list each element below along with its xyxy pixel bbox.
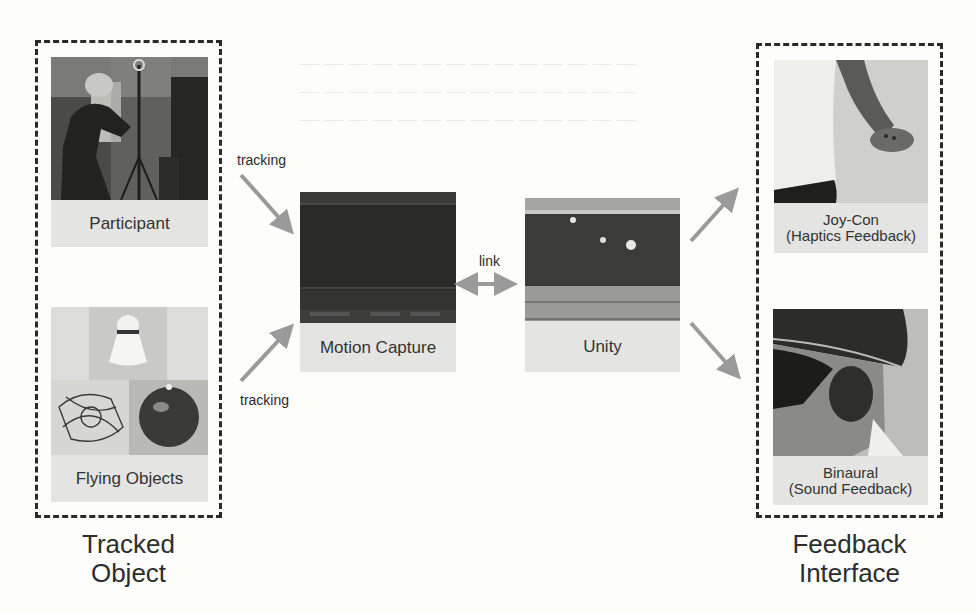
edge-label-link: link bbox=[479, 253, 500, 269]
edge-layer bbox=[0, 0, 977, 613]
edge-unity-to-joycon bbox=[691, 192, 735, 241]
edge-flying-objects-to-motion-capture bbox=[241, 328, 290, 381]
edge-participant-to-motion-capture bbox=[241, 175, 290, 230]
edge-label-tracking-bottom: tracking bbox=[240, 392, 289, 408]
edge-label-tracking-top: tracking bbox=[237, 152, 286, 168]
edge-unity-to-binaural bbox=[691, 323, 737, 375]
